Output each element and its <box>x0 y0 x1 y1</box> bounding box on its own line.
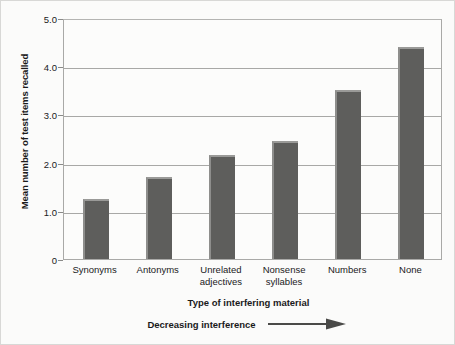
gridline <box>64 116 441 117</box>
gridline <box>64 68 441 69</box>
right-arrow-icon <box>268 318 346 330</box>
x-axis-tick-labels: SynonymsAntonymsUnrelatedadjectivesNonse… <box>63 264 442 298</box>
x-axis-title: Type of interfering material <box>1 297 455 308</box>
chart-figure: Mean number of test items recalled 01.02… <box>0 0 455 345</box>
bar <box>272 141 298 259</box>
bar <box>209 155 235 259</box>
y-axis-tick-label: 3.0 <box>19 110 57 121</box>
y-axis-tick-label: 1.0 <box>19 206 57 217</box>
annotation-label: Decreasing interference <box>147 319 255 330</box>
annotation-row: Decreasing interference <box>1 318 455 330</box>
bar <box>146 177 172 259</box>
x-axis-tick-label: None <box>379 264 442 276</box>
gridline <box>64 213 441 214</box>
bar <box>398 47 424 259</box>
x-axis-tick-label: Numbers <box>316 264 379 276</box>
x-axis-tick-label: Synonyms <box>63 264 126 276</box>
bar <box>83 199 109 259</box>
y-axis-tick-mark <box>58 260 63 261</box>
y-axis-tick-label: 2.0 <box>19 158 57 169</box>
y-axis-tick-label: 5.0 <box>19 14 57 25</box>
y-axis-tick-label: 4.0 <box>19 62 57 73</box>
x-axis-tick-label: Antonyms <box>126 264 189 276</box>
plot-area <box>63 19 442 260</box>
x-axis-tick-label: Nonsensesyllables <box>253 264 316 287</box>
x-axis-tick-label: Unrelatedadjectives <box>189 264 252 287</box>
y-axis-tick-label: 0 <box>19 255 57 266</box>
gridline <box>64 165 441 166</box>
bar <box>335 90 361 259</box>
